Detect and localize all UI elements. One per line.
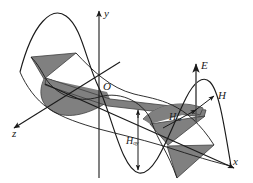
h-lobe-right-lower <box>167 145 214 178</box>
origin-label: O <box>103 81 111 92</box>
e-vector-label: E <box>201 60 208 71</box>
x-axis-line <box>45 84 234 168</box>
em-wave-diagram: y x z O E H Hoy Hoz <box>0 0 253 183</box>
h-oz-subscript: oz <box>176 116 181 122</box>
y-axis-label: y <box>104 8 109 19</box>
h-oy-amplitude-label: Hoy <box>126 136 139 146</box>
diagram-canvas <box>0 0 253 183</box>
h-oy-subscript: oy <box>133 140 138 146</box>
z-axis-label: z <box>12 128 16 139</box>
x-axis-label: x <box>233 156 238 167</box>
h-vector-label: H <box>218 90 226 101</box>
h-oz-amplitude-label: Hoz <box>169 112 181 122</box>
